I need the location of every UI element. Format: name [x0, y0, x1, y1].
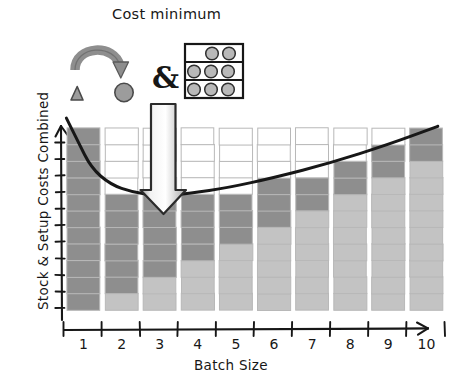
- bar-5: [219, 128, 253, 310]
- bar-cell: [372, 211, 405, 228]
- bar-cell: [257, 144, 290, 161]
- bar-cell: [181, 293, 214, 310]
- triangle-shape-icon: [71, 87, 83, 101]
- bar-cell: [410, 260, 443, 277]
- bar-7: [295, 128, 328, 310]
- bar-cell: [181, 128, 214, 145]
- bar-cell: [372, 277, 405, 294]
- bar-cell: [334, 260, 367, 277]
- x-axis: [64, 322, 446, 336]
- bar-cell: [181, 244, 214, 261]
- bar-cell: [219, 293, 252, 310]
- x-tick-label-5: 5: [222, 336, 250, 352]
- x-tick-label-6: 6: [260, 336, 288, 352]
- x-tick-label-7: 7: [298, 336, 326, 352]
- bar-cell: [334, 194, 367, 211]
- bar-cell: [219, 194, 252, 211]
- x-tick-label-4: 4: [184, 336, 212, 352]
- bar-cell: [105, 277, 138, 294]
- bar-cell: [67, 277, 100, 294]
- x-tick-label-1: 1: [70, 336, 98, 352]
- x-tick-label-10: 10: [412, 336, 440, 352]
- bar-cell: [181, 194, 214, 211]
- bar-cell: [295, 145, 328, 162]
- bar-cell: [105, 227, 138, 244]
- y-axis-ticks: [55, 143, 65, 309]
- bar-cell: [334, 161, 367, 178]
- bar-cell: [372, 194, 405, 211]
- bar-cell: [258, 194, 291, 211]
- bar-cell: [258, 128, 291, 145]
- bar-cell: [296, 128, 329, 145]
- bar-cell: [296, 277, 329, 294]
- bar-cell: [372, 227, 405, 244]
- bar-cell: [219, 277, 252, 294]
- bar-cell: [410, 277, 443, 294]
- bar-cell: [296, 244, 329, 261]
- bar-cell: [143, 293, 176, 310]
- bar-cell: [410, 161, 443, 178]
- bar-cell: [105, 161, 138, 178]
- curved-changeover-arrow-icon: [75, 50, 129, 78]
- bar-group: [67, 128, 443, 311]
- bar-cell: [181, 227, 214, 244]
- bar-cell: [333, 227, 366, 244]
- bar-cell: [334, 277, 367, 294]
- bar-cell: [143, 211, 176, 228]
- bar-9: [372, 128, 405, 310]
- bar-cell: [257, 277, 290, 294]
- bar-cell: [219, 211, 252, 228]
- bar-cell: [334, 178, 367, 195]
- bar-cell: [410, 177, 443, 194]
- bar-cell: [67, 211, 100, 228]
- bar-cell: [67, 194, 100, 211]
- bar-cell: [296, 260, 329, 277]
- bar-cell: [143, 227, 176, 244]
- bar-cell: [296, 211, 329, 228]
- x-tick: [445, 322, 446, 336]
- bar-cell: [105, 244, 138, 261]
- bar-cell: [105, 128, 138, 145]
- bar-cell: [410, 194, 443, 211]
- x-tick-label-2: 2: [108, 336, 136, 352]
- bar-cell: [181, 161, 214, 178]
- bar-cell: [410, 244, 443, 261]
- bar-cell: [257, 260, 290, 277]
- bar-cell: [372, 128, 405, 145]
- bar-cell: [372, 260, 405, 277]
- bar-cell: [67, 261, 100, 278]
- bar-cell: [220, 244, 253, 261]
- bar-cell: [372, 178, 405, 195]
- bar-cell: [372, 161, 405, 178]
- bar-cell: [219, 161, 252, 178]
- bar-cell: [67, 244, 100, 261]
- y-axis-label: Stock & Setup Costs Combined: [35, 110, 51, 310]
- bar-cell: [295, 227, 328, 244]
- circle-shape-icon: [115, 83, 133, 101]
- bar-cell: [258, 244, 291, 261]
- bar-cell: [105, 211, 138, 228]
- bar-4: [181, 128, 214, 310]
- bar-cell: [105, 260, 138, 277]
- bar-10: [410, 128, 443, 310]
- bar-cell: [67, 178, 100, 195]
- bar-cell: [182, 277, 215, 294]
- bar-cell: [105, 144, 138, 161]
- x-tick-label-9: 9: [374, 336, 402, 352]
- bar-cell: [143, 261, 176, 278]
- bar-cell: [296, 194, 329, 211]
- x-tick-label-3: 3: [146, 336, 174, 352]
- bar-cell: [410, 293, 443, 310]
- bar-cell: [67, 227, 100, 244]
- bar-cell: [334, 293, 367, 310]
- bar-2: [105, 128, 138, 310]
- hand-drawn-chart-canvas: [0, 0, 457, 383]
- bar-cell: [181, 210, 214, 227]
- bar-cell: [334, 211, 367, 228]
- chart-title: Cost minimum: [112, 6, 221, 22]
- y-axis: [55, 126, 67, 320]
- storage-rack-with-units-icon: [185, 44, 243, 98]
- bar-cell: [220, 145, 253, 162]
- bar-cell: [105, 194, 138, 211]
- bar-cell: [257, 211, 290, 228]
